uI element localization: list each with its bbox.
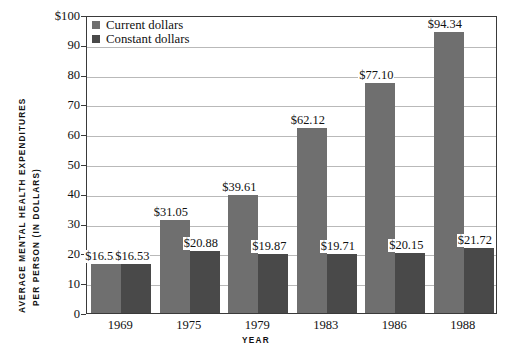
bar-con: [258, 254, 288, 313]
bar-cur: [434, 32, 464, 313]
bar-value-label: $19.87: [251, 240, 287, 253]
x-tick-label: 1988: [423, 318, 503, 333]
y-tick-label: 0: [28, 308, 80, 321]
bar-cur: [160, 220, 190, 313]
bar-group: [434, 17, 494, 313]
y-tick-label: 80: [28, 69, 80, 82]
bar-group: [160, 17, 220, 313]
bar-con: [395, 253, 425, 313]
bar-con: [464, 248, 494, 313]
y-tick-label: $100: [28, 10, 80, 23]
bar-con: [190, 251, 220, 313]
y-tick-label: 60: [28, 129, 80, 142]
bar-value-label: $19.71: [320, 240, 356, 253]
bar-cur: [365, 83, 395, 313]
legend-item-current-dollars: Current dollars: [92, 18, 190, 32]
bar-group: [297, 17, 357, 313]
y-tick-label: 30: [28, 218, 80, 231]
bar-cur: [297, 128, 327, 313]
bar-value-label: $39.61: [221, 181, 257, 194]
bar-con: [327, 254, 357, 313]
legend-label-current-dollars: Current dollars: [106, 18, 183, 33]
bar-value-label: $21.72: [457, 234, 493, 247]
y-tick-label: 40: [28, 188, 80, 201]
legend-label-constant-dollars: Constant dollars: [106, 32, 190, 47]
bar-value-label: $16.53: [114, 250, 150, 263]
plot-area: [86, 16, 497, 314]
y-axis-title-line-1: AVERAGE MENTAL HEALTH EXPENDITURES: [18, 98, 27, 313]
y-tick-label: 10: [28, 278, 80, 291]
y-tick-label: 50: [28, 159, 80, 172]
bar-group: [228, 17, 288, 313]
bar-group: [91, 17, 151, 313]
y-tick-label: 20: [28, 248, 80, 261]
bar-value-label: $62.12: [290, 114, 326, 127]
bar-value-label: $20.88: [183, 237, 219, 250]
bar-value-label: $31.05: [153, 206, 189, 219]
legend-swatch-constant-dollars: [92, 35, 100, 43]
bar-value-label: $77.10: [358, 69, 394, 82]
x-axis-title: YEAR: [0, 336, 512, 345]
bar-con: [121, 264, 151, 313]
y-tick-label: 90: [28, 39, 80, 52]
bar-cur: [91, 264, 121, 313]
chart-figure: AVERAGE MENTAL HEALTH EXPENDITURES PER P…: [0, 0, 512, 346]
bar-group: [365, 17, 425, 313]
chart-legend: Current dollars Constant dollars: [92, 18, 190, 46]
bar-cur: [228, 195, 258, 313]
legend-swatch-current-dollars: [92, 21, 100, 29]
legend-item-constant-dollars: Constant dollars: [92, 32, 190, 46]
y-tick-label: 70: [28, 99, 80, 112]
bar-value-label: $94.34: [427, 18, 463, 31]
bar-value-label: $20.15: [388, 239, 424, 252]
y-tick-mark: [81, 314, 86, 315]
